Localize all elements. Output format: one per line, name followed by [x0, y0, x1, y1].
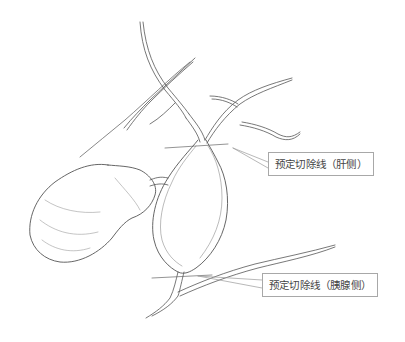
callout-label: 预定切除线（肝侧） [275, 158, 367, 170]
cystic-duct-line [80, 62, 190, 157]
hepatic-duct-branches [124, 22, 300, 143]
callout-liver-side-cut-line: 预定切除线（肝侧） [268, 152, 374, 176]
choledochal-cyst [153, 140, 228, 273]
cut-line-liver-side [165, 144, 228, 148]
gallbladder [30, 164, 168, 262]
callout-pancreas-side-cut-line: 预定切除线（胰腺侧） [262, 273, 378, 297]
callout-leader-pancreas [198, 276, 262, 288]
callout-leader-liver [233, 148, 268, 168]
callout-label: 预定切除线（胰腺侧） [269, 279, 371, 291]
